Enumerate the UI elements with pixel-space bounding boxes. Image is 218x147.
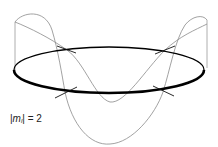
node-mark [57,46,76,53]
quantum-number-label: |ml| = 2 [10,113,42,124]
wave-back [15,22,207,102]
wave-front [15,14,207,144]
ring-wave-diagram [0,0,218,147]
label-value: 2 [36,113,42,124]
equals-sign: = [25,113,36,124]
m-symbol: m [13,113,21,124]
ring-front [14,70,204,93]
ring-back [14,47,204,70]
